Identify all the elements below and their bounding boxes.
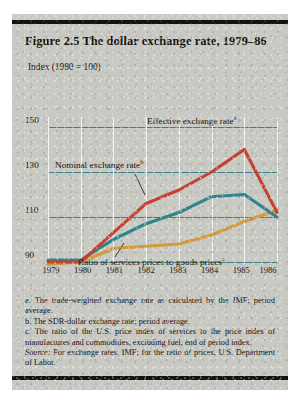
xtick-1980: 1980 xyxy=(74,265,91,275)
gridline-1986 xyxy=(277,117,278,262)
figure-notes: a. The trade-weighted exchange rate as c… xyxy=(25,296,275,369)
annotation-ratio-footnote-mark: c xyxy=(222,255,225,262)
figure-title: Figure 2.5 The dollar exchange rate, 197… xyxy=(25,34,277,49)
annotation-nominal-exchange-rate: Nominal exchange rateb xyxy=(55,158,143,170)
xtick-1981: 1981 xyxy=(106,265,123,275)
xtick-1979: 1979 xyxy=(42,265,59,275)
chart-area: Index (1980 = 100) 150 130 110 90 xyxy=(25,62,277,284)
bottom-rule xyxy=(12,376,288,380)
xtick-1985: 1985 xyxy=(233,265,250,275)
source-text: For exchange rates, IMF; for the ratio o… xyxy=(25,348,275,367)
plot-region: 150 130 110 90 Effective exchange ratea xyxy=(25,62,277,284)
footnote-a: a. The trade-weighted exchange rate as c… xyxy=(25,296,275,317)
series-line-nominal xyxy=(48,195,277,261)
series-lines xyxy=(25,62,277,284)
footnote-c: c. The ratio of the U.S. price index of … xyxy=(25,327,275,348)
xtick-1982: 1982 xyxy=(138,265,155,275)
source-note: Source: For exchange rates, IMF; for the… xyxy=(25,348,275,369)
annotation-nominal-label: Nominal exchange rate xyxy=(55,160,140,170)
leader-line-nominal xyxy=(135,174,145,195)
annotation-effective-footnote-mark: a xyxy=(234,114,237,121)
annotation-effective-label: Effective exchange rate xyxy=(147,116,234,126)
xtick-1984: 1984 xyxy=(201,265,218,275)
annotation-nominal-footnote-mark: b xyxy=(140,158,143,165)
figure-card: Figure 2.5 The dollar exchange rate, 197… xyxy=(12,14,288,390)
xtick-1986: 1986 xyxy=(259,265,276,275)
source-label: Source: xyxy=(25,348,51,357)
xtick-1983: 1983 xyxy=(169,265,186,275)
top-rule xyxy=(12,20,288,24)
footnote-b: b. The SDR-dollar exchange rate; period … xyxy=(25,317,275,327)
annotation-effective-exchange-rate: Effective exchange ratea xyxy=(147,114,236,126)
